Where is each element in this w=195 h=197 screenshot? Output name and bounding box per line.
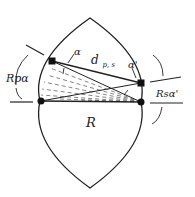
- point-square-right: [138, 80, 145, 87]
- point-dot-left: [38, 98, 45, 105]
- label-radius: R: [85, 115, 96, 130]
- label-alpha-left: α: [74, 46, 81, 57]
- point-square-left: [49, 58, 56, 65]
- label-distance-main: d: [91, 53, 99, 67]
- label-distance-subscript: p, s: [103, 61, 116, 69]
- label-rs-alpha: Rsα': [155, 88, 178, 99]
- label-alpha-right: α': [128, 59, 138, 70]
- label-distance: d p, s: [91, 53, 115, 69]
- dashed-fan-lines: [41, 68, 141, 102]
- lens-outline: [39, 18, 143, 188]
- label-rp-alpha: Rpα: [5, 72, 29, 85]
- lens-diagram: α α' d p, s Rpα Rsα' R: [0, 0, 195, 197]
- point-dot-right: [138, 99, 145, 106]
